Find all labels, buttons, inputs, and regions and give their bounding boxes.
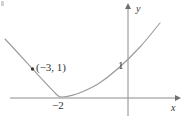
scan-speck: [1, 1, 4, 6]
parabola-figure: (−3, 1) 1 −2 x y: [0, 0, 182, 120]
y-axis-label: y: [136, 4, 140, 14]
parabola-curve: [5, 23, 160, 97]
point-coordinate-label: (−3, 1): [36, 62, 66, 73]
point-marker-dot: [31, 67, 34, 70]
x-axis-arrow-icon: [175, 95, 181, 101]
y-axis-arrow-icon: [125, 3, 131, 9]
x-axis-label: x: [171, 103, 175, 113]
y-intercept-label: 1: [118, 60, 124, 71]
x-vertex-label: −2: [52, 100, 64, 111]
graph-canvas: [0, 0, 182, 120]
